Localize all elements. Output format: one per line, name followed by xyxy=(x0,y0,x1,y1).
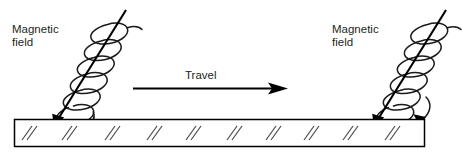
right-magnetic-field-label: Magnetic field xyxy=(332,23,379,48)
travel-arrow: Travel xyxy=(133,69,288,95)
left-coil-turn-1 xyxy=(91,23,128,44)
left-field-label-line2: field xyxy=(12,36,33,48)
right-field-label-line2: field xyxy=(332,36,353,48)
workpiece-bar xyxy=(15,120,425,147)
left-helix-loops xyxy=(57,23,142,127)
magnetic-field-travel-diagram: Magnetic field Travel xyxy=(0,0,462,154)
left-coil-top-tail xyxy=(127,27,142,30)
right-field-label-line1: Magnetic xyxy=(332,23,379,35)
right-magnetic-field-helix xyxy=(372,10,461,128)
bar-outline xyxy=(15,120,425,147)
right-coil-turn-1 xyxy=(411,23,448,44)
right-helix-loops xyxy=(377,23,461,125)
right-coil-tail xyxy=(424,97,430,119)
left-magnetic-field-label: Magnetic field xyxy=(12,23,59,48)
left-field-label-line1: Magnetic xyxy=(12,23,59,35)
diagram-canvas: Magnetic field Travel xyxy=(0,0,462,154)
travel-label: Travel xyxy=(185,69,217,81)
right-coil-turn-2 xyxy=(404,40,441,61)
left-coil-turn-2 xyxy=(84,40,121,61)
right-coil-top-tail xyxy=(447,27,461,30)
left-magnetic-field-helix xyxy=(52,10,142,128)
right-helix-axis-line xyxy=(378,10,447,120)
left-helix-axis-line xyxy=(58,10,127,120)
